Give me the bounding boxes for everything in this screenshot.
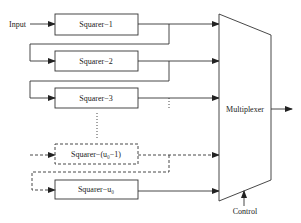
input-label: Input	[9, 20, 27, 29]
squarer-multiplexer-diagram: Input Squarer−1 Squarer−2 Squarer−3 Squa…	[0, 0, 301, 223]
squarer-u0-minus-1-label: Squarer−(u₀−1)	[71, 150, 121, 159]
squarer-1-label: Squarer−1	[79, 20, 112, 29]
multiplexer-label: Multiplexer	[226, 105, 264, 114]
squarer-3-label: Squarer−3	[79, 94, 112, 103]
squarer-u0-label: Squarer−u₀	[78, 185, 114, 194]
control-label: Control	[233, 207, 258, 216]
squarer-2-label: Squarer−2	[79, 57, 112, 66]
